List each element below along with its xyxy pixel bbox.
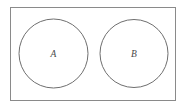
universal-set-rectangle [11,8,176,101]
venn-diagram-figure: A B [0,0,187,109]
set-b-label: B [131,49,137,59]
set-a-label: A [50,49,57,59]
venn-diagram-canvas: A B [0,0,187,109]
